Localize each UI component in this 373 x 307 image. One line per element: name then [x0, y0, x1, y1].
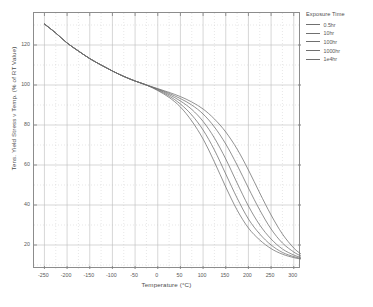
- x-tick-label: 150: [220, 272, 229, 278]
- legend-item[interactable]: 10hr: [306, 29, 370, 38]
- x-tick-label: -200: [61, 272, 72, 278]
- legend-line-swatch: [306, 50, 320, 51]
- y-tick-label: 80: [24, 121, 30, 127]
- y-axis-title: Tens. Yield Stress v Temp. (% of RT Valu…: [10, 0, 17, 234]
- x-tick-label: -150: [83, 272, 94, 278]
- x-tick-label: -250: [38, 272, 49, 278]
- plot-area: [33, 12, 300, 268]
- y-tick-label: 40: [24, 201, 30, 207]
- legend-item-label: 1e4hr: [324, 56, 338, 62]
- x-tick-label: 200: [243, 272, 252, 278]
- legend-item-label: 10hr: [324, 30, 335, 36]
- legend-item-label: 0.5hr: [324, 22, 336, 28]
- x-axis-title: Temperature (°C): [33, 281, 300, 288]
- legend-line-swatch: [306, 59, 320, 60]
- plot-canvas: [34, 13, 301, 269]
- y-tick-label: 60: [24, 161, 30, 167]
- x-tick-label: 50: [176, 272, 182, 278]
- y-tick-label: 120: [21, 41, 30, 47]
- legend-item-label: 100hr: [324, 39, 338, 45]
- legend-item[interactable]: 100hr: [306, 38, 370, 47]
- y-tick-label: 100: [21, 81, 30, 87]
- y-tick-label: 20: [24, 241, 30, 247]
- x-tick-label: -50: [130, 272, 138, 278]
- chart-screenshot: 20406080100120 -250-200-150-100-50050100…: [0, 0, 373, 307]
- legend-item[interactable]: 1000hr: [306, 46, 370, 55]
- legend-item[interactable]: 1e4hr: [306, 55, 370, 64]
- legend-title: Exposure Time: [306, 11, 370, 17]
- legend-line-swatch: [306, 24, 320, 25]
- x-tick-label: 100: [198, 272, 207, 278]
- x-tick-label: 250: [266, 272, 275, 278]
- legend-item-label: 1000hr: [324, 48, 341, 54]
- legend-line-swatch: [306, 33, 320, 34]
- x-tick-label: -100: [106, 272, 117, 278]
- legend: Exposure Time 0.5hr10hr100hr1000hr1e4hr: [306, 11, 370, 63]
- legend-line-swatch: [306, 41, 320, 42]
- legend-item[interactable]: 0.5hr: [306, 21, 370, 30]
- legend-items: 0.5hr10hr100hr1000hr1e4hr: [306, 21, 370, 64]
- x-tick-label: 300: [288, 272, 297, 278]
- x-tick-label: 0: [155, 272, 158, 278]
